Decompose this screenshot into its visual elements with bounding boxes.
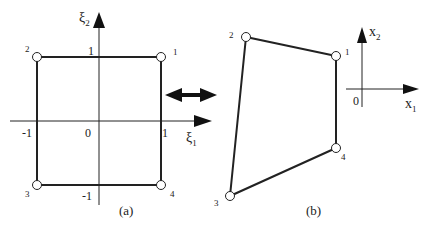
arrow-right-head-icon — [200, 88, 217, 102]
xi1-axis-arrowhead-icon — [194, 115, 212, 127]
caption-a: (a) — [119, 203, 133, 218]
tick-x-neg: -1 — [22, 126, 32, 140]
node-b-3 — [226, 192, 235, 201]
isoparametric-mapping-diagram: 1 2 3 4 1 -1 0 1 -1 ξ2 ξ1 (a) 1 2 3 4 (b… — [0, 0, 424, 226]
node-a-2 — [33, 53, 42, 62]
physical-element-quad — [230, 37, 336, 196]
node-b-1-label: 1 — [345, 47, 350, 57]
tick-x-pos: 1 — [162, 126, 168, 140]
caption-b: (b) — [306, 203, 321, 218]
node-a-1 — [157, 53, 166, 62]
node-a-3-label: 3 — [25, 189, 30, 199]
mapping-arrow — [165, 88, 217, 102]
x1-axis-arrowhead-icon — [403, 84, 419, 94]
node-b-3-label: 3 — [214, 198, 219, 208]
node-a-1-label: 1 — [173, 47, 178, 57]
x2-axis-label: x2 — [369, 24, 381, 42]
xi1-axis-label: ξ1 — [186, 130, 197, 148]
node-b-4 — [332, 144, 341, 153]
origin-b-label: 0 — [353, 94, 359, 108]
node-a-2-label: 2 — [25, 44, 30, 54]
panel-b: 1 2 3 4 (b) x2 x1 0 — [214, 24, 419, 218]
node-a-4-label: 4 — [170, 189, 175, 199]
node-a-3 — [33, 181, 42, 190]
xi2-axis-arrowhead-icon — [93, 12, 105, 28]
node-b-2 — [242, 33, 251, 42]
tick-y-neg: -1 — [82, 189, 92, 203]
node-b-4-label: 4 — [341, 152, 346, 162]
node-a-4 — [157, 181, 166, 190]
node-b-2-label: 2 — [229, 30, 234, 40]
arrow-left-head-icon — [165, 88, 182, 102]
node-b-1 — [332, 52, 341, 61]
panel-a: 1 2 3 4 1 -1 0 1 -1 ξ2 ξ1 (a) — [10, 10, 212, 218]
xi2-axis-label: ξ2 — [79, 10, 90, 28]
tick-origin: 0 — [85, 126, 91, 140]
x2-axis-arrowhead-icon — [357, 27, 367, 43]
x1-axis-label: x1 — [405, 96, 417, 114]
tick-y-pos: 1 — [88, 44, 94, 58]
